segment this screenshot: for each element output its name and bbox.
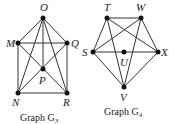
label-U: U	[120, 56, 129, 68]
caption-g4: Graph G4	[104, 106, 143, 119]
label-W: W	[136, 1, 146, 13]
graph-figure: O M Q P N R Graph G3 T W	[0, 0, 169, 124]
graph-g4: T W S U X V Graph G4	[82, 1, 169, 119]
label-M: M	[5, 37, 16, 49]
label-T: T	[104, 1, 111, 13]
label-V: V	[120, 91, 128, 103]
label-O: O	[40, 1, 48, 13]
vertex-N	[16, 91, 21, 96]
label-N: N	[11, 96, 20, 108]
vertex-Q	[65, 41, 70, 46]
label-R: R	[62, 96, 70, 108]
vertex-X	[156, 50, 161, 55]
graph-g3: O M Q P N R Graph G3	[5, 1, 79, 124]
label-X: X	[160, 46, 169, 58]
vertex-V	[122, 85, 127, 90]
label-P: P	[38, 74, 46, 86]
vertex-S	[91, 50, 96, 55]
vertex-U	[122, 50, 127, 55]
vertex-P	[41, 67, 46, 72]
vertex-W	[139, 16, 144, 21]
vertex-M	[16, 41, 21, 46]
vertex-R	[65, 91, 70, 96]
label-Q: Q	[71, 37, 79, 49]
vertex-T	[105, 16, 110, 21]
caption-g3: Graph G3	[20, 112, 59, 124]
vertex-O	[41, 16, 46, 21]
label-S: S	[82, 46, 88, 58]
